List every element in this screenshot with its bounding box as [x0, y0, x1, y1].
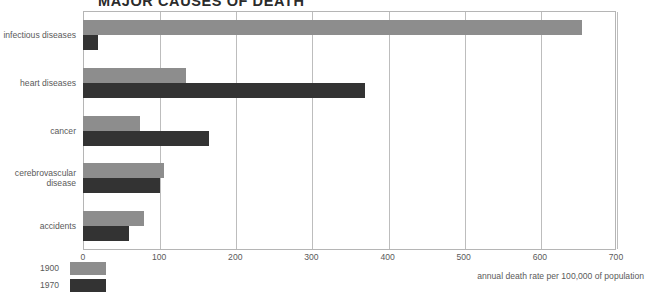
bar-1970: [83, 83, 365, 98]
legend-item-1900: 1900: [40, 261, 106, 275]
x-tick-label-500: 500: [457, 252, 471, 262]
legend-label-1900: 1900: [40, 263, 68, 273]
x-axis-label: annual death rate per 100,000 of populat…: [477, 271, 644, 281]
y-label-infectious-diseases: infectious diseases: [0, 30, 76, 40]
bar-1970: [83, 178, 160, 193]
legend-item-1970: 1970: [40, 278, 106, 292]
x-tick-label-200: 200: [228, 252, 242, 262]
bar-1900: [83, 211, 144, 226]
y-label-cancer: cancer: [0, 126, 76, 136]
chart-container: MAJOR CAUSES OF DEATH infectious disease…: [0, 0, 648, 293]
bar-1970: [83, 131, 209, 146]
bar-group: [83, 211, 616, 241]
chart-legend: 19001970: [40, 261, 220, 293]
bar-1900: [83, 116, 140, 131]
legend-swatch-1900: [70, 262, 106, 275]
bar-group: [83, 116, 616, 146]
x-tick-label-300: 300: [304, 252, 318, 262]
x-tick-label-400: 400: [380, 252, 394, 262]
y-label-accidents: accidents: [0, 221, 76, 231]
bar-1900: [83, 68, 186, 83]
chart-title: MAJOR CAUSES OF DEATH: [98, 0, 304, 9]
y-label-heart-diseases: heart diseases: [0, 78, 76, 88]
x-tick-label-600: 600: [533, 252, 547, 262]
legend-swatch-1970: [70, 279, 106, 292]
y-axis-category-labels: infectious diseasesheart diseasescancerc…: [0, 11, 76, 250]
bar-1970: [83, 226, 129, 241]
bar-1900: [83, 20, 582, 35]
bar-1900: [83, 163, 164, 178]
bar-series-group: [83, 11, 616, 250]
legend-label-1970: 1970: [40, 280, 68, 290]
bar-group: [83, 20, 616, 50]
gridline-700: [617, 12, 618, 249]
x-tick-label-700: 700: [609, 252, 623, 262]
bar-1970: [83, 35, 98, 50]
bar-group: [83, 68, 616, 98]
bar-group: [83, 163, 616, 193]
y-label-cerebrovascular-disease: cerebrovascular disease: [0, 168, 76, 188]
